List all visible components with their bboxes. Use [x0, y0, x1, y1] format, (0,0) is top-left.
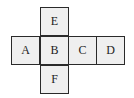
face-label: C	[78, 43, 86, 58]
face-c: C	[68, 36, 97, 65]
face-d: D	[96, 36, 125, 65]
face-a: A	[11, 36, 40, 65]
face-label: A	[21, 43, 30, 58]
face-label: D	[106, 43, 115, 58]
face-label: E	[51, 14, 58, 29]
face-e: E	[40, 7, 69, 36]
face-b: B	[40, 36, 69, 65]
face-label: B	[50, 43, 58, 58]
face-label: F	[51, 72, 58, 87]
face-f: F	[40, 65, 69, 94]
